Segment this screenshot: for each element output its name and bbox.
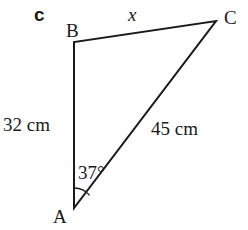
vertex-label-a: A (53, 207, 67, 226)
vertex-label-b: B (66, 21, 79, 40)
part-label: c (34, 5, 45, 24)
side-label-ab: 32 cm (3, 115, 50, 134)
angle-label-a: 37° (78, 163, 105, 182)
vertex-label-c: C (224, 8, 237, 27)
triangle-diagram: c B C A x 32 cm 45 cm 37° (0, 0, 248, 230)
side-label-ac: 45 cm (151, 119, 198, 138)
side-label-bc: x (128, 5, 136, 24)
